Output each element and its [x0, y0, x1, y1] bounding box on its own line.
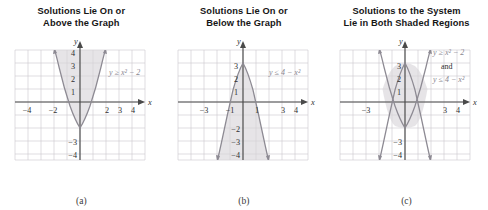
- x-tick: −3: [362, 106, 371, 115]
- y-tick: 2: [234, 75, 238, 84]
- x-axis-label: x: [147, 98, 152, 107]
- x-tick: −4: [23, 106, 32, 115]
- panel-b-inequality-label: y ≤ 4 − x²: [268, 68, 301, 77]
- y-tick: −4: [394, 151, 403, 160]
- x-tick: 3: [443, 106, 447, 115]
- x-tick: 3: [118, 106, 122, 115]
- x-axis-label: x: [472, 98, 477, 107]
- figure-three-panel-inequalities: Solutions Lie On or Above the Graph: [0, 0, 488, 210]
- panel-a-title-line2: Above the Graph: [0, 17, 163, 29]
- panel-c: Solutions to the System Lie in Both Shad…: [325, 0, 488, 210]
- y-tick: 3: [234, 62, 238, 71]
- y-tick: 1: [397, 88, 401, 97]
- y-tick: 1: [71, 88, 75, 97]
- x-tick: 4: [294, 106, 298, 115]
- y-tick: 3: [397, 62, 401, 71]
- panel-c-title: Solutions to the System Lie in Both Shad…: [325, 5, 488, 29]
- x-tick: −1: [226, 106, 235, 115]
- y-tick: 4: [71, 49, 75, 58]
- x-tick: −3: [200, 106, 209, 115]
- y-tick: −3: [69, 138, 78, 147]
- panel-a-caption: (a): [0, 196, 163, 206]
- panel-c-title-line2: Lie in Both Shaded Regions: [325, 17, 488, 29]
- panel-b-title-line1: Solutions Lie On or: [163, 5, 326, 17]
- x-tick: 3: [281, 106, 285, 115]
- y-tick: 2: [397, 75, 401, 84]
- panel-c-inequality-label-2: y ≤ 4 − x²: [432, 75, 465, 84]
- y-tick: 1: [234, 88, 238, 97]
- y-axis-label: y: [236, 37, 241, 46]
- y-tick: −3: [231, 138, 240, 147]
- panel-c-caption: (c): [325, 196, 488, 206]
- panel-b-caption: (b): [163, 196, 326, 206]
- panel-b: Solutions Lie On or Below the Graph: [163, 0, 326, 210]
- y-tick: −4: [69, 151, 78, 160]
- panel-c-conjunction-label: and: [441, 62, 453, 71]
- y-axis-label: y: [398, 37, 403, 46]
- panel-b-title: Solutions Lie On or Below the Graph: [163, 5, 326, 29]
- panel-a-graph: −4 −2 2 3 4 4 3 2 1 −3 −4 x y y ≥ x² − 2: [8, 36, 154, 176]
- panel-c-title-line1: Solutions to the System: [325, 5, 488, 17]
- y-tick: 2: [71, 75, 75, 84]
- panel-b-plot-area: −3 −1 1 3 4 3 2 1 −2 −3 −4 x y y ≤ 4 − x…: [163, 36, 326, 184]
- panel-a-title: Solutions Lie On or Above the Graph: [0, 5, 163, 29]
- x-tick: 4: [456, 106, 460, 115]
- panel-a-axes: [15, 41, 145, 160]
- y-tick: −4: [231, 151, 240, 160]
- y-tick: −3: [394, 138, 403, 147]
- panel-a-title-line1: Solutions Lie On or: [0, 5, 163, 17]
- x-tick: −2: [49, 106, 58, 115]
- x-tick: 2: [105, 106, 109, 115]
- x-tick: 4: [131, 106, 135, 115]
- panel-a: Solutions Lie On or Above the Graph: [0, 0, 163, 210]
- panel-c-axes: [340, 41, 470, 160]
- x-tick: 1: [255, 106, 259, 115]
- y-tick: 3: [71, 62, 75, 71]
- x-axis-label: x: [310, 98, 315, 107]
- panel-a-inequality-label: y ≥ x² − 2: [108, 68, 140, 77]
- panel-c-graph: −3 3 4 3 2 1 −3 −4 x y y ≥ x² − 2 and y …: [333, 36, 479, 176]
- panel-b-graph: −3 −1 1 3 4 3 2 1 −2 −3 −4 x y y ≤ 4 − x…: [171, 36, 317, 176]
- panel-c-inequality-label-1: y ≥ x² − 2: [432, 48, 464, 57]
- y-tick: −2: [231, 125, 240, 134]
- y-axis-label: y: [73, 37, 78, 46]
- panel-c-plot-area: −3 3 4 3 2 1 −3 −4 x y y ≥ x² − 2 and y …: [325, 36, 488, 184]
- panel-b-axes: [178, 41, 308, 160]
- panel-b-title-line2: Below the Graph: [163, 17, 326, 29]
- panel-a-plot-area: −4 −2 2 3 4 4 3 2 1 −3 −4 x y y ≥ x² − 2: [0, 36, 163, 184]
